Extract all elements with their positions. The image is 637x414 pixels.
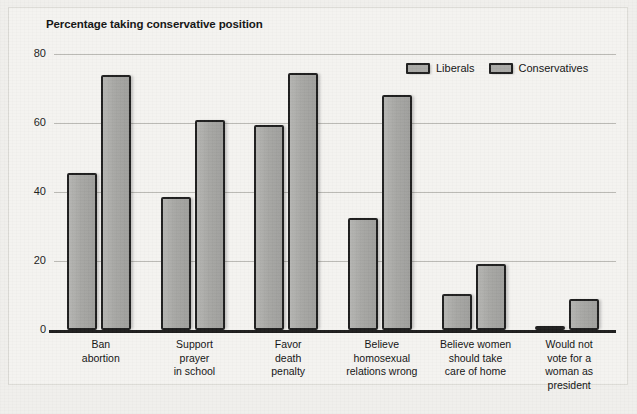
gridline-20 bbox=[54, 261, 616, 262]
bar-fill bbox=[103, 77, 129, 328]
bar-fill bbox=[290, 75, 316, 328]
x-axis-label-5: Would notvote for awoman aspresident bbox=[514, 338, 624, 392]
x-axis-labels: BanabortionSupportprayerin schoolFavorde… bbox=[54, 338, 616, 408]
y-tick-label-80: 80 bbox=[8, 47, 46, 59]
bar-fill bbox=[478, 266, 504, 328]
gridline-40 bbox=[54, 192, 616, 193]
legend-label-conservatives: Conservatives bbox=[519, 62, 589, 74]
bar-conservatives-3 bbox=[382, 95, 412, 330]
y-tick-label-60: 60 bbox=[8, 116, 46, 128]
bar-fill bbox=[384, 97, 410, 328]
y-tick-label-40: 40 bbox=[8, 185, 46, 197]
bar-fill bbox=[350, 220, 376, 328]
y-tick-label-20: 20 bbox=[8, 254, 46, 266]
chart-title: Percentage taking conservative position bbox=[46, 18, 263, 30]
bar-liberals-0 bbox=[67, 173, 97, 330]
bar-fill bbox=[256, 127, 282, 328]
bar-liberals-2 bbox=[254, 125, 284, 330]
bar-conservatives-1 bbox=[195, 120, 225, 330]
bar-fill bbox=[163, 199, 189, 328]
bar-fill bbox=[69, 175, 95, 328]
bar-fill bbox=[444, 296, 470, 328]
x-axis-label-line: woman as bbox=[514, 365, 624, 379]
bar-liberals-4 bbox=[442, 294, 472, 330]
bar-group bbox=[348, 54, 412, 330]
legend-item-liberals: Liberals bbox=[406, 62, 475, 74]
x-axis-line bbox=[49, 330, 616, 333]
gridline-80 bbox=[54, 54, 616, 55]
bar-fill bbox=[571, 301, 597, 328]
legend-swatch-conservatives bbox=[489, 63, 513, 74]
bar-liberals-3 bbox=[348, 218, 378, 330]
legend-swatch-liberals bbox=[406, 63, 430, 74]
bar-liberals-1 bbox=[161, 197, 191, 330]
bar-group bbox=[442, 54, 506, 330]
x-axis-label-line: Would not bbox=[514, 338, 624, 352]
bar-group bbox=[67, 54, 131, 330]
x-axis-label-line: vote for a bbox=[514, 352, 624, 366]
bar-conservatives-5 bbox=[569, 299, 599, 330]
plot-area: 020406080 bbox=[54, 54, 616, 330]
bar-group bbox=[254, 54, 318, 330]
bar-group bbox=[161, 54, 225, 330]
legend-label-liberals: Liberals bbox=[436, 62, 475, 74]
bar-fill bbox=[197, 122, 223, 328]
x-axis-label-line: president bbox=[514, 379, 624, 393]
legend-item-conservatives: Conservatives bbox=[489, 62, 589, 74]
bar-conservatives-0 bbox=[101, 75, 131, 330]
gridline-60 bbox=[54, 123, 616, 124]
bar-conservatives-4 bbox=[476, 264, 506, 330]
figure: Percentage taking conservative position … bbox=[0, 0, 637, 414]
y-tick-label-0: 0 bbox=[8, 323, 46, 335]
chart-legend: Liberals Conservatives bbox=[406, 62, 588, 74]
bar-conservatives-2 bbox=[288, 73, 318, 330]
bar-group bbox=[535, 54, 599, 330]
